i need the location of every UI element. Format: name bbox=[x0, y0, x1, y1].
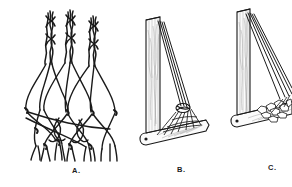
figure-c-caption: C. bbox=[268, 163, 277, 172]
figure-plate: A. B. C. bbox=[0, 0, 292, 187]
plate-illustration bbox=[0, 0, 292, 187]
figure-a-caption: A. bbox=[72, 166, 81, 175]
figure-b-vertical-post bbox=[146, 17, 160, 133]
figure-c-vertical-post bbox=[237, 9, 250, 115]
figure-b-caption: B. bbox=[177, 165, 186, 174]
figure-c-pivot-hole bbox=[235, 119, 238, 122]
figure-b-pivot-hole bbox=[144, 137, 147, 140]
